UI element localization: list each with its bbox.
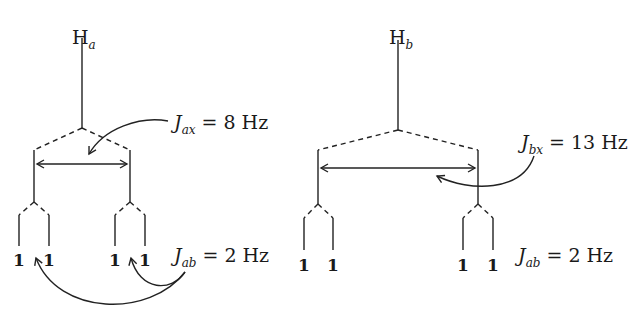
curved-arrow-jbx xyxy=(437,156,534,186)
intensity-label: 1 xyxy=(109,250,121,270)
split-dash xyxy=(304,204,318,218)
intensity-label: 1 xyxy=(487,255,499,275)
label-jab-left: Jab=2 Hz xyxy=(170,244,269,270)
label-ha: Ha xyxy=(72,26,96,52)
split-dash xyxy=(318,130,398,150)
label-jab-right: Jab=2 Hz xyxy=(514,244,613,270)
label-jax: Jax=8 Hz xyxy=(170,111,268,137)
split-dash xyxy=(318,204,333,218)
tree-hb: Hb Jbx=13 Hz 1 1 1 1 Jab=2 Hz xyxy=(298,26,628,275)
label-jbx: Jbx=13 Hz xyxy=(517,131,628,157)
splitting-diagram: Ha Jax=8 Hz 1 1 1 1 Jab=2 Hz Hb xyxy=(0,0,635,316)
split-dash xyxy=(34,128,82,150)
intensity-label: 1 xyxy=(139,250,151,270)
intensity-label: 1 xyxy=(327,255,339,275)
split-dash xyxy=(34,202,49,215)
tree-ha: Ha Jax=8 Hz 1 1 1 1 Jab=2 Hz xyxy=(13,26,269,304)
label-hb: Hb xyxy=(389,26,413,52)
intensity-label: 1 xyxy=(43,250,55,270)
split-dash xyxy=(82,128,130,150)
split-dash xyxy=(463,204,478,218)
split-dash xyxy=(398,130,478,150)
split-dash xyxy=(19,202,34,215)
intensity-label: 1 xyxy=(13,250,25,270)
intensity-label: 1 xyxy=(298,255,310,275)
split-dash xyxy=(115,202,130,215)
split-dash xyxy=(130,202,145,215)
split-dash xyxy=(478,204,493,218)
intensity-label: 1 xyxy=(457,255,469,275)
